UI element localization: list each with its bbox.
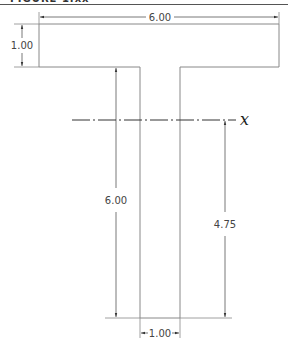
centroid-height-dimension: 4.75 — [180, 121, 236, 318]
x-axis-label: x — [240, 110, 249, 129]
total-height-label: 6.00 — [105, 195, 127, 206]
web-width-label: 1.00 — [149, 328, 171, 339]
total-height-dimension: 6.00 — [105, 68, 140, 318]
t-section-outline — [39, 24, 279, 318]
centroid-height-label: 4.75 — [214, 219, 236, 230]
flange-thickness-label: 1.00 — [11, 40, 33, 51]
flange-thickness-dimension: 1.00 — [11, 24, 39, 67]
centroid-axis: x — [72, 110, 249, 129]
flange-width-label: 6.00 — [149, 12, 171, 23]
web-width-dimension: 1.00 — [140, 318, 180, 339]
t-section-diagram: 6.00 1.00 6.00 x 4.75 1.00 — [0, 0, 288, 345]
flange-width-dimension: 6.00 — [39, 12, 279, 24]
